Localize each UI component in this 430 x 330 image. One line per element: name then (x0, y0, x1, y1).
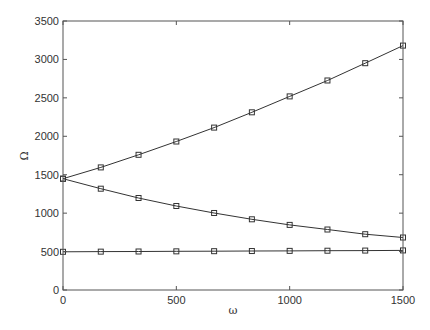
y-tick-label: 2500 (35, 92, 59, 104)
y-axis-label: Ω (18, 151, 31, 160)
y-tick-label: 3000 (35, 53, 59, 65)
axes-box (63, 21, 403, 290)
axes-layer: 0500100015000500100015002000250030003500 (35, 15, 416, 306)
series-line (63, 179, 403, 238)
y-tick-label: 500 (41, 246, 59, 258)
y-tick-label: 2000 (35, 130, 59, 142)
series-line (63, 46, 403, 179)
series-upper-branch (61, 43, 406, 181)
series-flat-branch (61, 248, 406, 254)
series-line (63, 250, 403, 251)
x-axis-label: ω (229, 304, 238, 317)
series-layer (61, 43, 406, 254)
x-tick-label: 0 (60, 294, 66, 306)
y-tick-label: 0 (53, 284, 59, 296)
y-tick-label: 3500 (35, 15, 59, 27)
x-tick-label: 500 (167, 294, 185, 306)
x-tick-label: 1500 (391, 294, 415, 306)
series-lower-branch (61, 176, 406, 240)
y-tick-label: 1000 (35, 207, 59, 219)
chart: 0500100015000500100015002000250030003500… (0, 0, 430, 330)
y-tick-label: 1500 (35, 169, 59, 181)
x-tick-label: 1000 (277, 294, 301, 306)
